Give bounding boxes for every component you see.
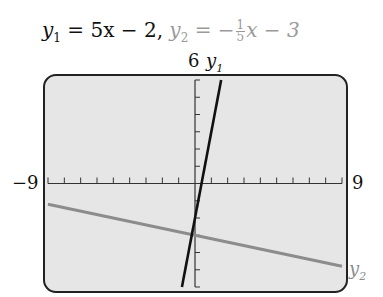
- graph-screen: [0, 0, 383, 297]
